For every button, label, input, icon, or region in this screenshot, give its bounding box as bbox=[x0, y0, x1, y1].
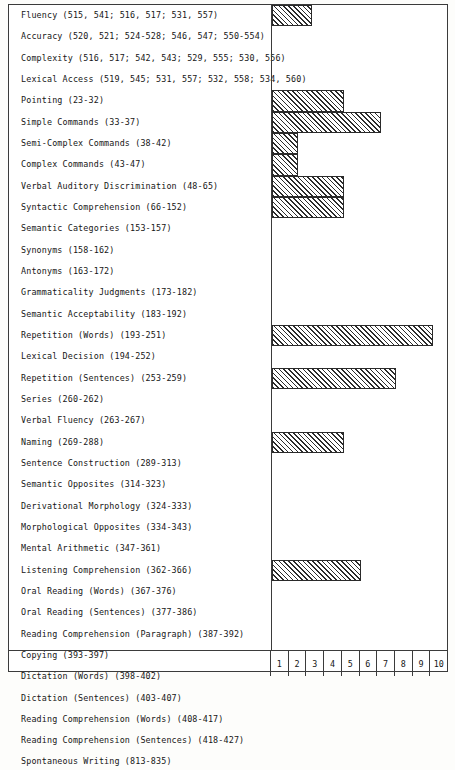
bar bbox=[272, 368, 396, 389]
bar bbox=[272, 560, 361, 581]
bar bbox=[272, 5, 312, 26]
bar-row bbox=[272, 602, 447, 623]
bar-row bbox=[272, 133, 447, 154]
category-label: Reading Comprehension (Words) (408-417) bbox=[9, 709, 271, 730]
axis-tick-5: 5 bbox=[342, 651, 360, 676]
bar-row bbox=[272, 26, 447, 47]
axis-tick-10: 10 bbox=[430, 651, 447, 676]
bar-row bbox=[272, 474, 447, 495]
category-label: Antonyms (163-172) bbox=[9, 261, 271, 282]
category-label: Verbal Fluency (263-267) bbox=[9, 410, 271, 431]
bar bbox=[272, 133, 298, 154]
category-label: Oral Reading (Sentences) (377-386) bbox=[9, 602, 271, 623]
bar-row bbox=[272, 325, 447, 346]
bar-row bbox=[272, 5, 447, 26]
category-label: Lexical Decision (194-252) bbox=[9, 346, 271, 367]
category-label-column: Fluency (515, 541; 516, 517; 531, 557)Ac… bbox=[9, 5, 271, 650]
bar-row bbox=[272, 346, 447, 367]
axis-tick-8: 8 bbox=[395, 651, 413, 676]
bar-row bbox=[272, 517, 447, 538]
axis-tick-4: 4 bbox=[324, 651, 342, 676]
category-label: Reading Comprehension (Sentences) (418-4… bbox=[9, 730, 271, 751]
bar bbox=[272, 432, 344, 453]
category-label: Syntactic Comprehension (66-152) bbox=[9, 197, 271, 218]
category-label: Lexical Access (519, 545; 531, 557; 532,… bbox=[9, 69, 271, 90]
bar-row bbox=[272, 709, 447, 730]
category-label: Pointing (23-32) bbox=[9, 90, 271, 111]
bar-row bbox=[272, 751, 447, 770]
category-label: Accuracy (520, 521; 524-528; 546, 547; 5… bbox=[9, 26, 271, 47]
bar bbox=[272, 325, 433, 346]
bar-row bbox=[272, 453, 447, 474]
axis-tick-3: 3 bbox=[306, 651, 324, 676]
category-label: Repetition (Sentences) (253-259) bbox=[9, 368, 271, 389]
bar-row bbox=[272, 560, 447, 581]
category-label: Simple Commands (33-37) bbox=[9, 112, 271, 133]
bar-row bbox=[272, 304, 447, 325]
plot-area bbox=[272, 5, 447, 650]
category-label: Verbal Auditory Discrimination (48-65) bbox=[9, 176, 271, 197]
category-label: Synonyms (158-162) bbox=[9, 240, 271, 261]
category-label: Grammaticality Judgments (173-182) bbox=[9, 282, 271, 303]
chart-frame: Fluency (515, 541; 516, 517; 531, 557)Ac… bbox=[8, 4, 448, 672]
bar-row bbox=[272, 240, 447, 261]
axis-tick-9: 9 bbox=[413, 651, 431, 676]
axis-tick-7: 7 bbox=[377, 651, 395, 676]
category-label: Listening Comprehension (362-366) bbox=[9, 560, 271, 581]
category-label: Dictation (Sentences) (403-407) bbox=[9, 688, 271, 709]
category-label: Reading Comprehension (Paragraph) (387-3… bbox=[9, 624, 271, 645]
category-label: Mental Arithmetic (347-361) bbox=[9, 538, 271, 559]
axis-spacer bbox=[9, 651, 271, 676]
bar-row bbox=[272, 368, 447, 389]
bar bbox=[272, 176, 344, 197]
bar bbox=[272, 197, 344, 218]
category-label: Derivational Morphology (324-333) bbox=[9, 496, 271, 517]
axis-tick-1: 1 bbox=[271, 651, 289, 676]
bar-row bbox=[272, 581, 447, 602]
category-label: Complexity (516, 517; 542, 543; 529, 555… bbox=[9, 48, 271, 69]
bar-row bbox=[272, 282, 447, 303]
bar-row bbox=[272, 496, 447, 517]
category-label: Oral Reading (Words) (367-376) bbox=[9, 581, 271, 602]
bar-row bbox=[272, 69, 447, 90]
bar-row bbox=[272, 218, 447, 239]
bar-row bbox=[272, 197, 447, 218]
category-label: Naming (269-288) bbox=[9, 432, 271, 453]
bar-row bbox=[272, 48, 447, 69]
axis-tick-6: 6 bbox=[360, 651, 378, 676]
bar-row bbox=[272, 389, 447, 410]
category-label: Series (260-262) bbox=[9, 389, 271, 410]
bar bbox=[272, 90, 344, 111]
bar-row bbox=[272, 176, 447, 197]
category-label: Repetition (Words) (193-251) bbox=[9, 325, 271, 346]
bar-row bbox=[272, 624, 447, 645]
axis-tick-2: 2 bbox=[289, 651, 307, 676]
bar-row bbox=[272, 688, 447, 709]
bar-row bbox=[272, 154, 447, 175]
bar-row bbox=[272, 538, 447, 559]
axis-tick-row: 12345678910 bbox=[271, 651, 447, 676]
category-label: Sentence Construction (289-313) bbox=[9, 453, 271, 474]
category-label: Complex Commands (43-47) bbox=[9, 154, 271, 175]
bar bbox=[272, 112, 381, 133]
bar-row bbox=[272, 432, 447, 453]
value-axis-strip: 12345678910 bbox=[9, 651, 447, 676]
category-label: Fluency (515, 541; 516, 517; 531, 557) bbox=[9, 5, 271, 26]
category-label: Spontaneous Writing (813-835) bbox=[9, 751, 271, 770]
bar-row bbox=[272, 410, 447, 431]
category-label: Semantic Opposites (314-323) bbox=[9, 474, 271, 495]
category-label: Semi-Complex Commands (38-42) bbox=[9, 133, 271, 154]
bar bbox=[272, 154, 298, 175]
bar-row bbox=[272, 730, 447, 751]
category-label: Semantic Acceptability (183-192) bbox=[9, 304, 271, 325]
category-label: Semantic Categories (153-157) bbox=[9, 218, 271, 239]
bar-row bbox=[272, 90, 447, 111]
category-label: Morphological Opposites (334-343) bbox=[9, 517, 271, 538]
bar-row bbox=[272, 112, 447, 133]
bar-row bbox=[272, 261, 447, 282]
